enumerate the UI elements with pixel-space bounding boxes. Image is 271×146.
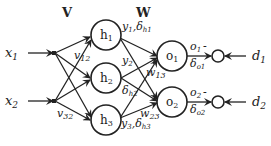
output-node-o1: o1	[157, 41, 187, 71]
output-o2-delta-label: δo2	[190, 103, 206, 117]
input-x2: x2	[5, 93, 56, 110]
hidden-node-h1: h1	[91, 20, 121, 50]
neural-network-diagram: V W x1 x2 v12 v32 h1 h2	[0, 0, 271, 146]
weights-v-label: V	[61, 5, 73, 20]
comparator-1	[212, 50, 224, 62]
hidden-h2-delta-label: δh2	[122, 84, 138, 98]
output-o1-value-label: o1-	[190, 40, 207, 54]
hidden-node-h2: h2	[91, 63, 121, 93]
output-o1-delta-label: δo1	[190, 57, 205, 71]
edge-label-v12: v12	[74, 49, 90, 63]
output-node-o2: o2	[157, 87, 187, 117]
weights-w-label: W	[135, 5, 151, 20]
target-d2: d2	[252, 94, 266, 111]
output-o2-value-label: o2-	[190, 86, 207, 100]
hidden-h1-annotation: y1,δh1	[121, 20, 152, 34]
edge-label-w23: w23	[140, 107, 160, 121]
svg-text:x2: x2	[5, 93, 18, 110]
target-d1: d1	[252, 48, 266, 65]
input-x1: x1	[5, 45, 56, 62]
hidden-node-h3: h3	[91, 105, 121, 135]
svg-text:x1: x1	[5, 45, 18, 62]
comparator-2	[212, 96, 224, 108]
